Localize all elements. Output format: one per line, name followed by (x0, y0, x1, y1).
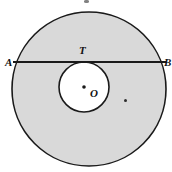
point-label-a: A (5, 57, 12, 68)
center-point-dot (82, 85, 86, 89)
scan-artifact-dot-icon (84, 0, 89, 3)
geometry-canvas (0, 0, 172, 172)
geometry-figure: A B T O (0, 0, 172, 172)
point-label-t: T (79, 45, 86, 56)
annulus-group (12, 12, 166, 166)
point-label-b: B (164, 57, 171, 68)
point-label-o: O (90, 88, 98, 99)
stray-dot-icon (124, 99, 127, 102)
